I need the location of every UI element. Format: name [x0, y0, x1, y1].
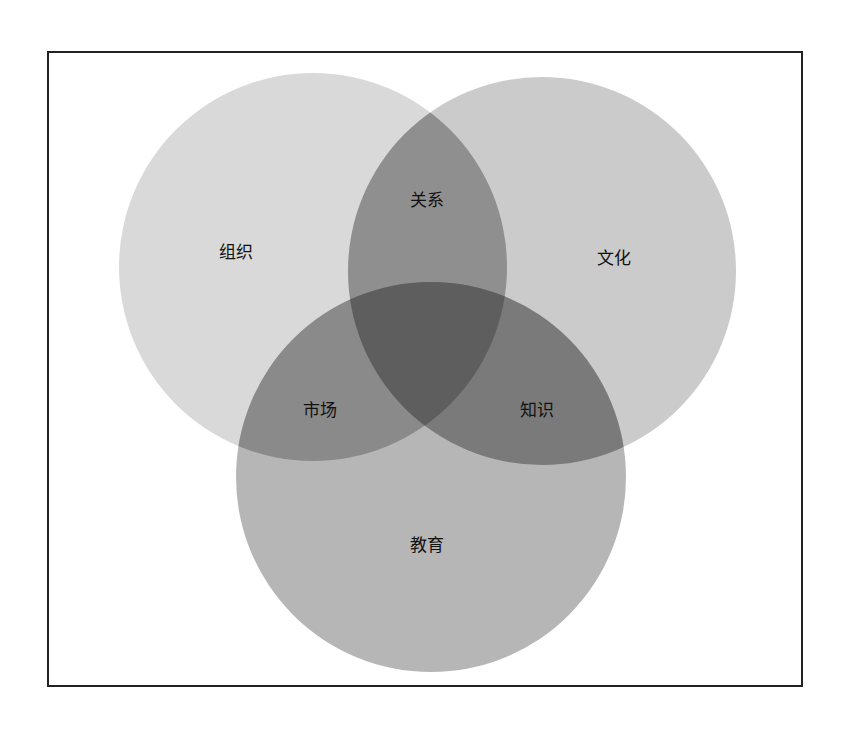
label-relationship: 关系: [410, 190, 444, 210]
label-education: 教育: [410, 535, 444, 555]
venn-diagram: 组织 文化 关系 市场 知识 教育: [0, 0, 852, 738]
label-organization: 组织: [219, 242, 253, 262]
label-market: 市场: [303, 400, 337, 420]
label-culture: 文化: [597, 248, 631, 268]
label-knowledge: 知识: [520, 400, 554, 420]
